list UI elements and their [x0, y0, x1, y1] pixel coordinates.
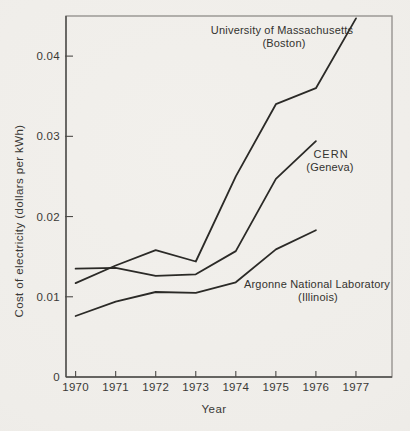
electricity-cost-line-chart: 19701971197219731974197519761977 00.010.…: [0, 0, 410, 431]
plot-frame: [66, 16, 392, 377]
x-tick-label-1977: 1977: [343, 381, 370, 393]
x-axis-title: Year: [202, 403, 227, 415]
x-tick-label-1973: 1973: [182, 381, 209, 393]
x-tick-label-1971: 1971: [102, 381, 129, 393]
cern-label-line1: CERN: [313, 148, 348, 160]
y-tick-label-0.02: 0.02: [36, 211, 60, 223]
cern-label-line2: (Geneva): [306, 161, 353, 173]
x-axis-ticks: 19701971197219731974197519761977: [62, 371, 369, 393]
series-line-cern: [76, 141, 316, 276]
umass-label-line2: (Boston): [262, 37, 305, 49]
umass-label-line1: University of Massachusetts: [211, 24, 354, 36]
plot-frame-border: [66, 16, 392, 377]
y-tick-label-0.01: 0.01: [36, 291, 60, 303]
argonne-label-line1: Argonne National Laboratory: [244, 278, 390, 290]
axis-titles: Year Cost of electricity (dollars per kW…: [13, 124, 226, 415]
y-tick-label-0.03: 0.03: [36, 130, 60, 142]
y-axis-ticks: 00.010.020.030.04: [36, 50, 73, 383]
argonne-label-line2: (Illinois): [298, 291, 338, 303]
x-tick-label-1970: 1970: [62, 381, 89, 393]
series-annotations: University of Massachusetts (Boston) CER…: [211, 24, 390, 303]
scanned-figure-page: 19701971197219731974197519761977 00.010.…: [0, 0, 410, 431]
x-tick-label-1974: 1974: [222, 381, 249, 393]
y-tick-label-0: 0: [53, 371, 60, 383]
series-line-argonne: [76, 230, 316, 316]
y-axis-title: Cost of electricity (dollars per kWh): [13, 124, 25, 317]
x-tick-label-1975: 1975: [262, 381, 289, 393]
x-tick-label-1972: 1972: [142, 381, 169, 393]
y-tick-label-0.04: 0.04: [36, 50, 60, 62]
x-tick-label-1976: 1976: [303, 381, 330, 393]
